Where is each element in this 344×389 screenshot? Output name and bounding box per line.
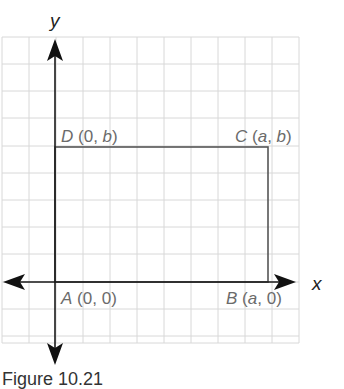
x-axis (3, 274, 296, 290)
point-label-b: B (a, 0) (226, 290, 282, 307)
point-label-c: C (a, b) (235, 128, 292, 145)
x-axis-label: x (312, 274, 322, 293)
point-label-a: A (0, 0) (61, 290, 117, 307)
rectangle-abcd (55, 147, 268, 282)
y-axis-label: y (50, 11, 60, 30)
figure-caption: Figure 10.21 (2, 370, 103, 388)
y-axis (47, 39, 63, 365)
coordinate-grid (0, 0, 344, 389)
point-label-d: D (0, b) (61, 128, 118, 145)
